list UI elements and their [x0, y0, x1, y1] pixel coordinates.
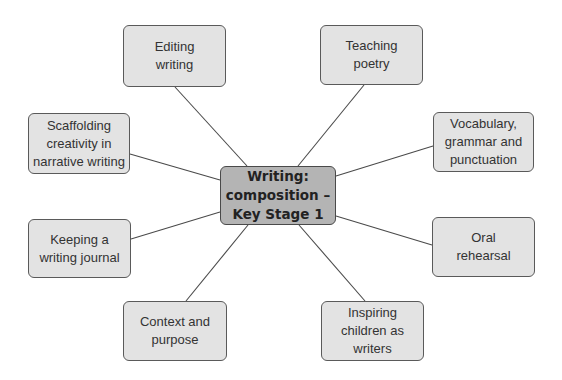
mind-map-canvas: Writing: composition – Key Stage 1 Editi… [0, 0, 562, 380]
node-inspiring-children-as-writers: Inspiring children as writers [321, 301, 424, 361]
node-keeping-writing-journal: Keeping a writing journal [28, 219, 131, 278]
node-vocabulary-grammar-punctuation: Vocabulary, grammar and punctuation [433, 112, 534, 172]
connector-oral-rehearsal [336, 216, 432, 245]
node-oral-rehearsal: Oral rehearsal [432, 217, 535, 277]
connector-inspiring-children-as-writers [299, 225, 365, 301]
connector-keeping-writing-journal [131, 212, 220, 239]
node-editing-writing: Editing writing [123, 25, 226, 87]
connector-teaching-poetry [298, 85, 364, 166]
connector-context-and-purpose [186, 225, 248, 301]
node-teaching-poetry: Teaching poetry [320, 25, 423, 85]
connector-editing-writing [175, 87, 247, 166]
node-scaffolding-creativity: Scaffolding creativity in narrative writ… [28, 113, 130, 174]
node-context-and-purpose: Context and purpose [123, 301, 227, 361]
connector-vocabulary-grammar-punctuation [336, 146, 433, 176]
central-topic-node: Writing: composition – Key Stage 1 [220, 166, 336, 225]
connector-scaffolding-creativity [130, 154, 220, 180]
